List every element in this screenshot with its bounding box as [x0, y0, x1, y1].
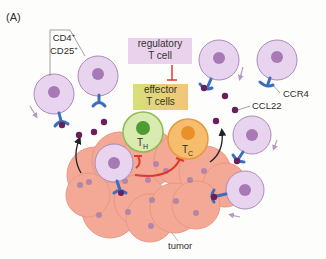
- th-label: TH: [137, 137, 148, 152]
- cd4-cd25-label: CD4+ CD25+: [50, 30, 78, 56]
- regulatory-inhibits-effector: [167, 65, 177, 80]
- treg-cell-upper-right-2: [257, 40, 297, 86]
- tc-label: TC: [182, 144, 193, 159]
- treg-cell-upper-right-1: [199, 40, 243, 91]
- effector-t-cells-box: effector T cells: [133, 84, 188, 110]
- treg-cell-upper-left-1: [30, 74, 74, 128]
- effector-line2: T cells: [133, 96, 188, 108]
- ccr4-label: CCR4: [283, 88, 309, 99]
- cd4-sup: +: [72, 32, 76, 38]
- tc-sub: C: [188, 150, 193, 157]
- cd25-text: CD25: [50, 45, 74, 56]
- ccl22-label: CCL22: [252, 100, 282, 111]
- tumor-label: tumor: [168, 240, 192, 251]
- ccl22-leader: [238, 106, 250, 110]
- effector-line1: effector: [133, 84, 188, 96]
- regulatory-t-cell-box: regulatory T cell: [128, 38, 192, 64]
- cd25-sup: +: [74, 45, 78, 51]
- treg-cell-upper-left-2: [78, 56, 118, 106]
- ccr4-leader: [272, 84, 280, 93]
- regulatory-line2: T cell: [128, 50, 192, 62]
- th-sub: H: [143, 143, 148, 150]
- treg-cell-right-middle: [233, 116, 277, 164]
- diagram-regulatory-t-cell-tumor: (A) CD4+ CD25+ regulatory T cell effecto…: [0, 0, 326, 259]
- cd4-text: CD4: [53, 32, 72, 43]
- regulatory-line1: regulatory: [128, 38, 192, 50]
- panel-label: (A): [6, 12, 21, 23]
